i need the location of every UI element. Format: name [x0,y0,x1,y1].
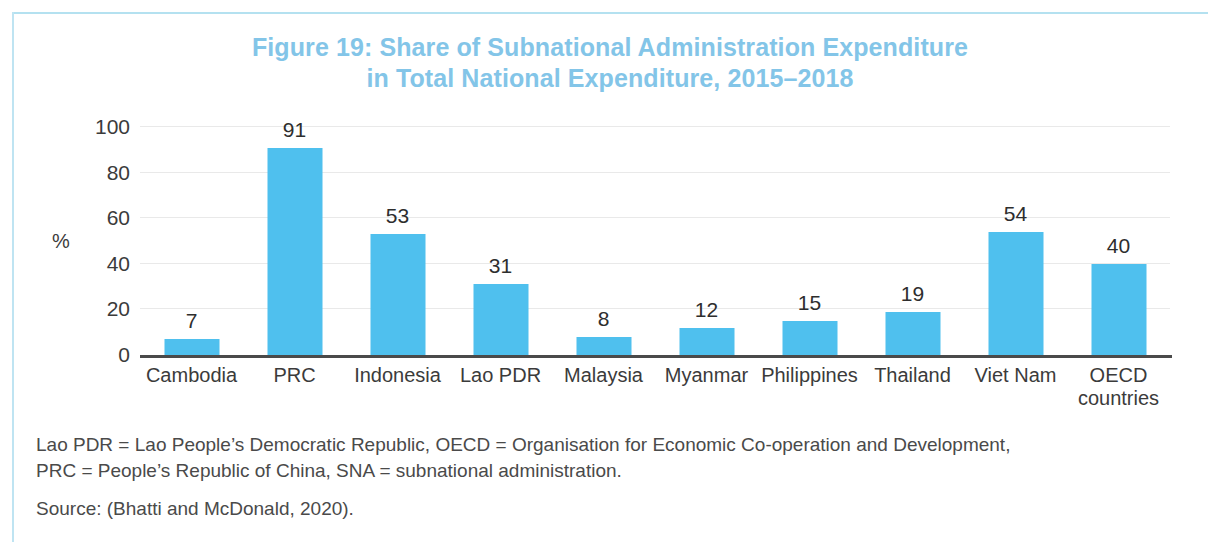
bar[interactable] [1091,264,1146,355]
y-axis-tick-label: 80 [70,161,130,185]
bar-slot: 12 [655,127,758,355]
bar-slot: 15 [758,127,861,355]
note-line-1: Lao PDR = Lao People’s Democratic Republ… [36,432,1176,458]
plot-area: 791533181215195440 [140,127,1170,355]
bar[interactable] [988,232,1043,355]
bar-value-label: 53 [386,204,409,228]
bar-value-label: 31 [489,254,512,278]
x-axis-line [140,355,1172,358]
bar-slot: 54 [964,127,1067,355]
y-axis-tick-label: 40 [70,252,130,276]
figure-title-line-1: Figure 19: Share of Subnational Administ… [120,32,1100,63]
bar-slot: 7 [140,127,243,355]
bar-value-label: 7 [186,309,198,333]
bar-value-label: 40 [1107,234,1130,258]
bar[interactable] [473,284,528,355]
bar[interactable] [885,312,940,355]
bar-value-label: 15 [798,291,821,315]
x-axis-category-label-line: OECD [1044,364,1194,387]
bar-slot: 8 [552,127,655,355]
note-line-2: PRC = People’s Republic of China, SNA = … [36,458,1176,484]
bar[interactable] [267,148,322,355]
bar[interactable] [370,234,425,355]
bar-value-label: 54 [1004,202,1027,226]
figure-source: Source: (Bhatti and McDonald, 2020). [36,496,354,522]
bar-value-label: 8 [598,307,610,331]
figure-title: Figure 19: Share of Subnational Administ… [120,32,1100,94]
figure-notes: Lao PDR = Lao People’s Democratic Republ… [36,432,1176,484]
bar-value-label: 12 [695,298,718,322]
y-axis-tick-label: 20 [70,297,130,321]
bar[interactable] [782,321,837,355]
bar-slot: 40 [1067,127,1170,355]
bar-slot: 31 [449,127,552,355]
y-axis-label: % [52,230,70,253]
x-axis-category-label: OECDcountries [1044,364,1194,410]
bar-slot: 91 [243,127,346,355]
bar[interactable] [164,339,219,355]
bar-value-label: 19 [901,282,924,306]
bar[interactable] [576,337,631,355]
bar-chart: % 020406080100 791533181215195440 Cambod… [0,112,1208,422]
bar-slot: 19 [861,127,964,355]
bar[interactable] [679,328,734,355]
figure-container: Figure 19: Share of Subnational Administ… [0,0,1208,542]
figure-title-line-2: in Total National Expenditure, 2015–2018 [120,63,1100,94]
bar-slot: 53 [346,127,449,355]
y-axis-tick-label: 60 [70,206,130,230]
y-axis-tick-label: 100 [70,115,130,139]
bar-value-label: 91 [283,118,306,142]
x-axis-category-label-line: countries [1044,387,1194,410]
